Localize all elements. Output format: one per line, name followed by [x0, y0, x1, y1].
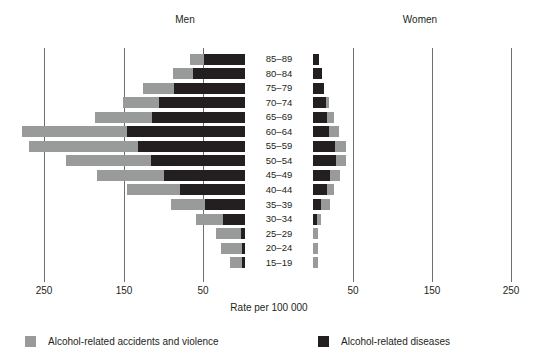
- bar-men-diseases: [205, 199, 245, 210]
- bar-women-accidents: [327, 112, 333, 123]
- bar-men-diseases: [242, 257, 245, 268]
- bar-men-diseases: [174, 83, 245, 94]
- age-group-label: 35–39: [256, 199, 302, 210]
- panel-title-women: Women: [360, 14, 480, 25]
- bar-men-accidents: [127, 184, 179, 195]
- tick-label-left-50: 50: [183, 285, 223, 296]
- population-pyramid-chart: MenWomen250150505015025085–8980–8475–797…: [0, 0, 538, 355]
- bar-men-accidents: [143, 83, 174, 94]
- legend-swatch-accidents: [25, 336, 36, 347]
- bar-women-diseases: [313, 126, 329, 137]
- bar-women-diseases: [313, 184, 327, 195]
- bar-women-accidents: [317, 214, 321, 225]
- age-group-label: 55–59: [256, 140, 302, 151]
- bar-men-accidents: [230, 257, 242, 268]
- gridline-right-50: [353, 48, 354, 277]
- bar-men-accidents: [216, 228, 241, 239]
- bar-men-accidents: [190, 54, 204, 65]
- age-group-label: 50–54: [256, 155, 302, 166]
- bar-women-diseases: [313, 83, 324, 94]
- bar-women-diseases: [313, 199, 321, 210]
- bar-men-diseases: [152, 112, 245, 123]
- age-group-label: 20–24: [256, 242, 302, 253]
- bar-men-diseases: [127, 126, 245, 137]
- age-group-label: 30–34: [256, 213, 302, 224]
- age-group-label: 15–19: [256, 257, 302, 268]
- age-group-label: 70–74: [256, 97, 302, 108]
- panel-title-men: Men: [125, 14, 245, 25]
- bar-men-diseases: [164, 170, 245, 181]
- age-group-label: 75–79: [256, 82, 302, 93]
- bar-men-diseases: [204, 54, 245, 65]
- legend-label-diseases: Alcohol-related diseases: [341, 336, 450, 347]
- bar-men-accidents: [29, 141, 139, 152]
- bar-men-accidents: [97, 170, 164, 181]
- bar-women-accidents: [313, 257, 318, 268]
- bar-women-diseases: [313, 141, 335, 152]
- tick-label-right-150: 150: [412, 285, 452, 296]
- tick-label-left-250: 250: [24, 285, 64, 296]
- bar-women-diseases: [313, 68, 322, 79]
- age-group-label: 85–89: [256, 53, 302, 64]
- bar-women-diseases: [313, 155, 336, 166]
- bar-women-accidents: [335, 141, 346, 152]
- bar-women-accidents: [336, 155, 346, 166]
- tick-label-left-150: 150: [104, 285, 144, 296]
- axis-title: Rate per 100 000: [0, 302, 538, 313]
- bar-men-accidents: [221, 243, 242, 254]
- legend-swatch-diseases: [318, 336, 329, 347]
- bar-women-diseases: [313, 97, 326, 108]
- bar-men-accidents: [95, 112, 152, 123]
- bar-women-accidents: [330, 170, 340, 181]
- bar-women-diseases: [313, 54, 319, 65]
- bar-women-accidents: [313, 228, 318, 239]
- bar-women-accidents: [313, 243, 318, 254]
- gridline-right-150: [432, 48, 433, 277]
- legend-label-accidents: Alcohol-related accidents and violence: [48, 336, 219, 347]
- bar-men-diseases: [241, 228, 245, 239]
- age-group-label: 40–44: [256, 184, 302, 195]
- bar-men-diseases: [242, 243, 245, 254]
- tick-right-250: [511, 277, 512, 282]
- age-group-label: 45–49: [256, 169, 302, 180]
- age-group-label: 60–64: [256, 126, 302, 137]
- tick-left-250: [44, 277, 45, 282]
- tick-left-150: [124, 277, 125, 282]
- bar-men-accidents: [123, 97, 160, 108]
- tick-label-right-250: 250: [491, 285, 531, 296]
- tick-label-right-50: 50: [333, 285, 373, 296]
- bar-women-accidents: [329, 126, 339, 137]
- bar-men-diseases: [138, 141, 245, 152]
- gridline-right-250: [511, 48, 512, 277]
- bar-men-diseases: [193, 68, 245, 79]
- bar-men-diseases: [159, 97, 245, 108]
- bar-women-diseases: [313, 170, 330, 181]
- age-group-label: 65–69: [256, 111, 302, 122]
- bar-men-accidents: [171, 199, 205, 210]
- bar-men-diseases: [151, 155, 245, 166]
- bar-men-diseases: [223, 214, 245, 225]
- tick-right-50: [353, 277, 354, 282]
- age-group-label: 25–29: [256, 228, 302, 239]
- bar-men-accidents: [196, 214, 223, 225]
- bar-women-accidents: [326, 97, 329, 108]
- tick-left-50: [203, 277, 204, 282]
- tick-right-150: [432, 277, 433, 282]
- gridline-left-250: [44, 48, 45, 277]
- bar-women-accidents: [321, 199, 331, 210]
- bar-women-accidents: [327, 184, 334, 195]
- bar-men-accidents: [173, 68, 192, 79]
- bar-men-accidents: [22, 126, 127, 137]
- age-group-label: 80–84: [256, 68, 302, 79]
- bar-women-diseases: [313, 112, 327, 123]
- bar-men-diseases: [180, 184, 245, 195]
- bar-men-accidents: [66, 155, 151, 166]
